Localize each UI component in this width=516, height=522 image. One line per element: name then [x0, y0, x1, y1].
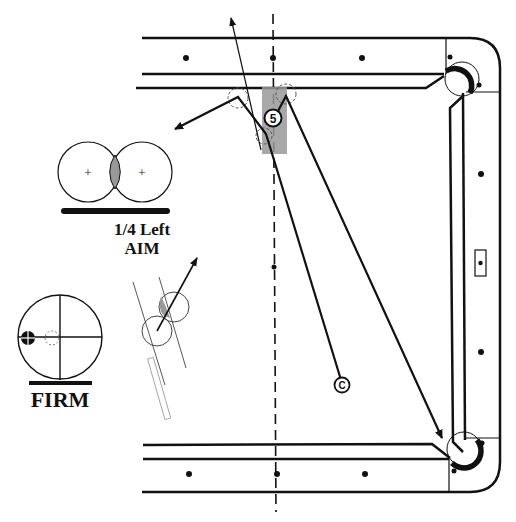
- table-rails: [136, 38, 500, 492]
- aim-label-line1: 1/4 Left: [62, 221, 222, 239]
- svg-text:+: +: [84, 165, 91, 180]
- corner-pocket-top-right: [445, 55, 482, 97]
- rail-diamonds: [183, 55, 484, 477]
- svg-text:5: 5: [270, 112, 277, 126]
- cue-ball-path: [175, 96, 442, 438]
- aim-overlap-diagram: + +: [58, 142, 172, 211]
- object-ball-5: 5: [265, 110, 282, 127]
- cue-tip-diagram: [18, 295, 102, 383]
- pool-table-diagram: 5 C + +: [0, 0, 516, 522]
- stroke-label: FIRM: [0, 388, 120, 412]
- side-pocket-marker: [475, 250, 486, 276]
- cue-ball: C: [335, 378, 350, 393]
- svg-text:+: +: [138, 165, 145, 180]
- svg-text:C: C: [338, 380, 345, 391]
- cue-angle-diagram: [133, 258, 197, 420]
- aim-label-line2: AIM: [62, 240, 222, 258]
